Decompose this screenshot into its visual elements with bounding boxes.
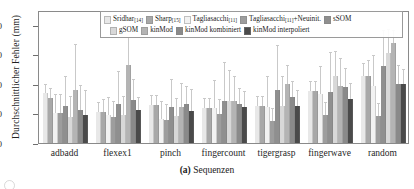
error-bar-cap xyxy=(180,83,183,84)
error-bar xyxy=(310,82,311,91)
bar xyxy=(401,84,406,143)
page-corner-mark xyxy=(4,180,15,189)
figure-caption: (a) Sequenzen xyxy=(0,165,414,175)
figure: Durchschnittlicher Fehler (mm) 010203040… xyxy=(0,0,414,189)
y-tick-label: 40 xyxy=(0,21,2,31)
bar-group xyxy=(39,12,92,143)
error-bar-cap xyxy=(54,94,57,95)
error-bar-cap xyxy=(132,79,135,80)
error-bar xyxy=(340,59,341,86)
error-bar-cap xyxy=(324,102,327,103)
error-bar xyxy=(80,86,81,110)
legend-swatch xyxy=(324,16,331,24)
legend-entry: kinMod xyxy=(141,27,173,35)
error-bar-cap xyxy=(329,52,332,53)
x-tick-label: adbadd xyxy=(51,148,78,158)
error-bar xyxy=(292,82,293,97)
legend-entry: Sridhar [14] xyxy=(104,16,143,24)
error-bar xyxy=(345,69,346,87)
error-bar-cap xyxy=(256,96,259,97)
error-bar-cap xyxy=(190,89,193,90)
error-bar-cap xyxy=(69,96,72,97)
error-bar-cap xyxy=(175,98,178,99)
error-bar xyxy=(234,77,235,101)
error-bar-cap xyxy=(155,95,158,96)
error-bar-cap xyxy=(319,66,322,67)
error-bar xyxy=(378,104,379,116)
error-bar-cap xyxy=(397,65,400,66)
error-bar xyxy=(128,38,129,65)
error-bar-cap xyxy=(102,99,105,100)
error-bar-cap xyxy=(243,91,246,92)
error-bar-cap xyxy=(223,62,226,63)
legend-label: Sridhar xyxy=(113,16,134,23)
legend-swatch xyxy=(141,27,148,35)
error-bar xyxy=(55,95,56,113)
legend-citation: [11] xyxy=(285,17,294,23)
legend-entry: Sharp [15] xyxy=(146,16,181,24)
x-tick-label: flexex1 xyxy=(103,148,132,158)
chart-legend: Sridhar [14]Sharp [15]Tagliasacchi [11]T… xyxy=(100,11,403,38)
error-bar xyxy=(320,67,321,94)
error-bar xyxy=(244,92,245,107)
error-bar-cap xyxy=(402,69,405,70)
legend-row-1: Sridhar [14]Sharp [15]Tagliasacchi [11]T… xyxy=(104,14,399,25)
error-bar-cap xyxy=(281,76,284,77)
legend-entry: gSOM xyxy=(110,27,138,35)
caption-tag: (a) xyxy=(180,165,191,175)
error-bar xyxy=(368,61,369,76)
legend-swatch xyxy=(110,27,117,35)
error-bar xyxy=(398,66,399,84)
error-bar xyxy=(219,100,220,115)
legend-swatch xyxy=(104,16,111,24)
legend-entry: kinMod kombiniert xyxy=(176,27,241,35)
legend-label: sSOM xyxy=(333,16,351,23)
x-tick-label: fingerwave xyxy=(308,148,351,158)
legend-label: Tagliasacchi xyxy=(249,16,285,23)
error-bar xyxy=(257,97,258,106)
error-bar xyxy=(262,97,263,106)
error-bar xyxy=(191,90,192,111)
error-bar xyxy=(151,96,152,105)
error-bar-cap xyxy=(276,45,279,46)
legend-entry: Tagliasacchi [11] xyxy=(184,16,237,24)
legend-swatch xyxy=(244,27,251,35)
bar xyxy=(189,111,194,143)
bar xyxy=(136,110,141,143)
y-tick-label: 30 xyxy=(0,50,2,60)
error-bar-cap xyxy=(122,96,125,97)
error-bar xyxy=(161,102,162,120)
error-bar xyxy=(45,85,46,92)
error-bar xyxy=(315,82,316,91)
error-bar xyxy=(373,56,374,86)
error-bar xyxy=(297,91,298,106)
error-bar-cap xyxy=(117,71,120,72)
error-bar xyxy=(85,91,86,115)
error-bar xyxy=(156,96,157,105)
error-bar-cap xyxy=(213,80,216,81)
error-bar xyxy=(282,77,283,107)
error-bar-cap xyxy=(49,88,52,89)
error-bar-cap xyxy=(309,81,312,82)
error-bar-cap xyxy=(208,98,211,99)
error-bar xyxy=(113,102,114,117)
bar xyxy=(295,106,300,143)
x-tick-label: random xyxy=(368,148,397,158)
error-bar xyxy=(335,52,336,76)
legend-swatch xyxy=(146,16,153,24)
error-bar-cap xyxy=(334,51,337,52)
error-bar xyxy=(108,98,109,116)
x-tick-label: pinch xyxy=(160,148,181,158)
error-bar-cap xyxy=(203,98,206,99)
error-bar-cap xyxy=(367,60,370,61)
error-bar-cap xyxy=(261,96,264,97)
error-bar xyxy=(118,72,119,105)
error-bar-cap xyxy=(79,85,82,86)
error-bar xyxy=(272,109,273,121)
error-bar xyxy=(60,95,61,113)
error-bar-cap xyxy=(377,103,380,104)
error-bar-cap xyxy=(238,88,241,89)
error-bar xyxy=(325,103,326,115)
error-bar-cap xyxy=(286,65,289,66)
legend-label: gSOM xyxy=(119,27,138,34)
